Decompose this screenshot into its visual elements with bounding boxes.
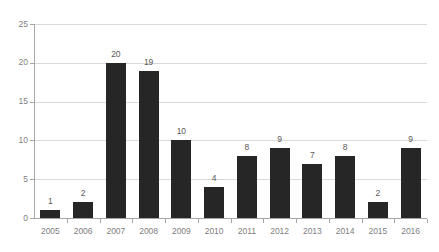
bar [139,71,159,218]
bar [270,148,290,218]
bar-value-label: 7 [292,151,332,160]
bar-value-label: 9 [391,135,431,144]
bar [302,164,322,218]
y-tick-label: 10 [0,136,28,145]
y-tick-label: 0 [0,214,28,223]
x-tick-mark [394,219,395,223]
x-tick-mark [67,219,68,223]
x-tick-mark [198,219,199,223]
bar-value-label: 8 [227,143,267,152]
bar [40,210,60,218]
bar [401,148,421,218]
bar [237,156,257,218]
x-tick-mark [296,219,297,223]
x-tick-mark [427,219,428,223]
bar-value-label: 4 [194,174,234,183]
bar-value-label: 8 [325,143,365,152]
bar [335,156,355,218]
bar-chart: 0510152025 122019104897829 2005200620072… [0,0,439,252]
bar-value-label: 1 [30,197,70,206]
bar-value-label: 10 [161,127,201,136]
x-tick-mark [100,219,101,223]
bar-value-label: 19 [129,58,169,67]
x-tick-mark [165,219,166,223]
y-tick-label: 5 [0,175,28,184]
bar-value-label: 9 [260,135,300,144]
bar [73,202,93,218]
x-tick-mark [263,219,264,223]
bar-value-label: 2 [358,189,398,198]
y-tick-label: 25 [0,20,28,29]
x-tick-mark [132,219,133,223]
y-tick-label: 20 [0,58,28,67]
bar [204,187,224,218]
bar [106,63,126,218]
bar-value-label: 2 [63,189,103,198]
x-tick-mark [231,219,232,223]
x-tick-mark [329,219,330,223]
x-tick-mark [362,219,363,223]
bar [368,202,388,218]
y-tick-label: 15 [0,97,28,106]
bar [171,140,191,218]
x-axis-category-label: 2016 [391,227,431,236]
